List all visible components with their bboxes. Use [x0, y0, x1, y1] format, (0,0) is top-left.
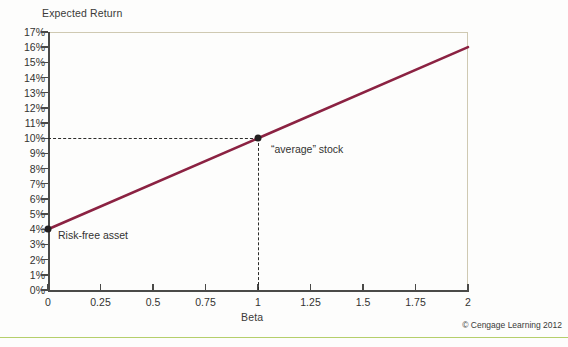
- x-axis-title: Beta: [241, 311, 263, 323]
- data-point-marker: [45, 226, 52, 233]
- x-axis-tick-mark: [415, 284, 416, 291]
- x-axis-tick-label: 0: [45, 296, 51, 308]
- y-axis-tick-mark: [41, 122, 48, 123]
- annotation-risk-free-asset: Risk-free asset: [58, 229, 128, 241]
- y-axis-tick-mark: [41, 62, 48, 63]
- y-axis-tick-mark: [41, 259, 48, 260]
- x-axis-tick-label: 1.75: [405, 296, 425, 308]
- x-axis-tick-label: 0.5: [146, 296, 161, 308]
- y-axis-title: Expected Return: [42, 7, 122, 19]
- x-axis-tick-label: 2: [465, 296, 471, 308]
- data-point-marker: [255, 135, 262, 142]
- y-axis-tick-mark: [41, 107, 48, 108]
- x-axis-tick-mark: [152, 284, 153, 291]
- x-axis-tick-mark: [100, 284, 101, 291]
- page-divider-rule: [0, 337, 568, 338]
- y-axis-tick-mark: [41, 183, 48, 184]
- y-axis-tick-mark: [41, 168, 48, 169]
- y-axis-tick-mark: [41, 46, 48, 47]
- x-axis-tick-label: 1.5: [356, 296, 371, 308]
- guide-line-vertical: [258, 138, 259, 290]
- y-axis-tick-mark: [41, 153, 48, 154]
- y-axis-tick-labels: 0%1%2%3%4%5%6%7%8%9%10%11%12%13%14%15%16…: [0, 0, 45, 347]
- plot-border-top: [48, 32, 468, 33]
- x-axis-tick-label: 1.25: [300, 296, 320, 308]
- x-axis-tick-label: 0.25: [90, 296, 110, 308]
- x-axis-tick-mark: [310, 284, 311, 291]
- y-axis-tick-mark: [41, 138, 48, 139]
- y-axis-line: [48, 32, 50, 291]
- x-axis-tick-label: 0.75: [195, 296, 215, 308]
- y-axis-tick-mark: [41, 77, 48, 78]
- y-axis-tick-mark: [41, 198, 48, 199]
- y-axis-tick-mark: [41, 244, 48, 245]
- x-axis-tick-mark: [467, 284, 468, 291]
- x-axis-tick-mark: [47, 284, 48, 291]
- y-axis-tick-mark: [41, 274, 48, 275]
- annotation-average-stock: “average” stock: [271, 143, 343, 155]
- copyright-notice: © Cengage Learning 2012: [462, 320, 562, 330]
- x-axis-tick-label: 1: [255, 296, 261, 308]
- x-axis-tick-mark: [205, 284, 206, 291]
- y-axis-tick-mark: [41, 92, 48, 93]
- y-axis-tick-mark: [41, 31, 48, 32]
- y-axis-tick-mark: [41, 213, 48, 214]
- guide-line-horizontal: [48, 138, 258, 139]
- x-axis-tick-mark: [362, 284, 363, 291]
- plot-border-right: [467, 32, 468, 290]
- security-market-line-chart: Expected Return 0%1%2%3%4%5%6%7%8%9%10%1…: [0, 0, 568, 347]
